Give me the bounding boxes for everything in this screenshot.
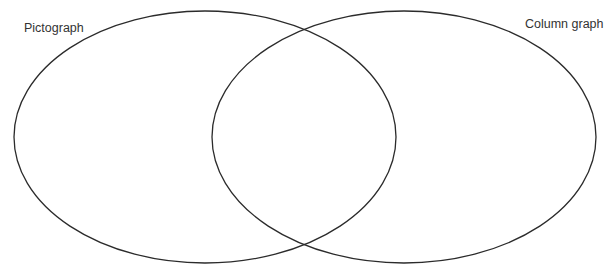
column-graph-set-ellipse bbox=[212, 11, 596, 263]
column-graph-label: Column graph bbox=[525, 18, 604, 31]
pictograph-label: Pictograph bbox=[24, 22, 84, 35]
venn-diagram bbox=[0, 0, 613, 270]
pictograph-set-ellipse bbox=[14, 11, 396, 263]
